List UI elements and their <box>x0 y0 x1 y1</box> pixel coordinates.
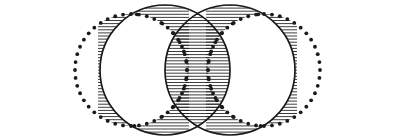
figure-canvas <box>0 0 395 139</box>
outline-dot <box>292 21 296 25</box>
outline-dot <box>211 91 215 95</box>
outline-dot <box>309 98 313 102</box>
outline-dot <box>159 21 163 25</box>
outline-dot <box>313 91 317 95</box>
outline-dot <box>292 115 296 119</box>
outline-dot <box>137 13 141 17</box>
outline-dot <box>74 76 78 80</box>
outline-dot <box>145 14 149 18</box>
outline-dot <box>78 91 82 95</box>
outline-dot <box>211 45 215 49</box>
outline-dot <box>152 17 156 21</box>
outline-dot <box>159 115 163 119</box>
outline-dot <box>121 124 125 128</box>
outline-dot <box>145 122 149 126</box>
outline-dot <box>176 38 180 42</box>
outline-dot <box>313 45 317 49</box>
outline-dot <box>166 26 170 30</box>
outline-dot <box>185 68 189 72</box>
outline-dot <box>304 31 308 35</box>
outline-dot <box>225 26 229 30</box>
outline-dot <box>208 84 212 88</box>
outline-dot <box>206 68 210 72</box>
outline-dot <box>87 105 91 109</box>
outline-dot <box>316 84 320 88</box>
outline-dot <box>304 105 308 109</box>
outline-dot <box>318 60 322 64</box>
outline-dot <box>270 13 274 17</box>
outline-dot <box>106 17 110 21</box>
outline-dot <box>121 13 125 17</box>
outline-dot <box>285 17 289 21</box>
outline-dot <box>185 76 189 80</box>
outline-dot <box>239 17 243 21</box>
outline-dot <box>215 98 219 102</box>
outline-dot <box>309 38 313 42</box>
outline-dot <box>318 76 322 80</box>
outline-dot <box>183 52 187 56</box>
outline-dot <box>113 14 117 18</box>
outline-dot <box>225 110 229 114</box>
outline-dot <box>232 115 236 119</box>
outline-dot <box>99 115 103 119</box>
outline-dot <box>183 84 187 88</box>
outline-dot <box>185 60 189 64</box>
outline-dot <box>285 119 289 123</box>
outline-dot <box>270 124 274 128</box>
outline-dot <box>87 31 91 35</box>
outline-dot <box>82 98 86 102</box>
outline-dot <box>299 26 303 30</box>
outline-dot <box>316 52 320 56</box>
outline-dot <box>207 60 211 64</box>
outline-dot <box>254 124 258 128</box>
outline-dot <box>278 14 282 18</box>
outline-dot <box>318 68 322 72</box>
outline-dot <box>152 119 156 123</box>
outline-dot <box>232 21 236 25</box>
outline-dot <box>75 52 79 56</box>
outline-dot <box>208 52 212 56</box>
outline-dot <box>207 76 211 80</box>
outline-dot <box>180 45 184 49</box>
outline-dot <box>246 122 250 126</box>
outline-dot <box>99 21 103 25</box>
outline-dot <box>180 91 184 95</box>
outline-dot <box>92 26 96 30</box>
outline-dot <box>74 60 78 64</box>
outline-dot <box>92 110 96 114</box>
outline-dot <box>82 38 86 42</box>
outline-dot <box>215 38 219 42</box>
outline-dot <box>299 110 303 114</box>
outline-dot <box>73 68 77 72</box>
outline-dot <box>106 119 110 123</box>
outline-dot <box>239 119 243 123</box>
outline-dot <box>78 45 82 49</box>
outline-dot <box>246 14 250 18</box>
outline-dot <box>137 124 141 128</box>
outline-dot <box>176 98 180 102</box>
outline-dot <box>113 122 117 126</box>
outline-dot <box>166 110 170 114</box>
euler-diagram <box>0 0 395 139</box>
outline-dot <box>254 13 258 17</box>
outline-dot <box>278 122 282 126</box>
outline-dot <box>75 84 79 88</box>
